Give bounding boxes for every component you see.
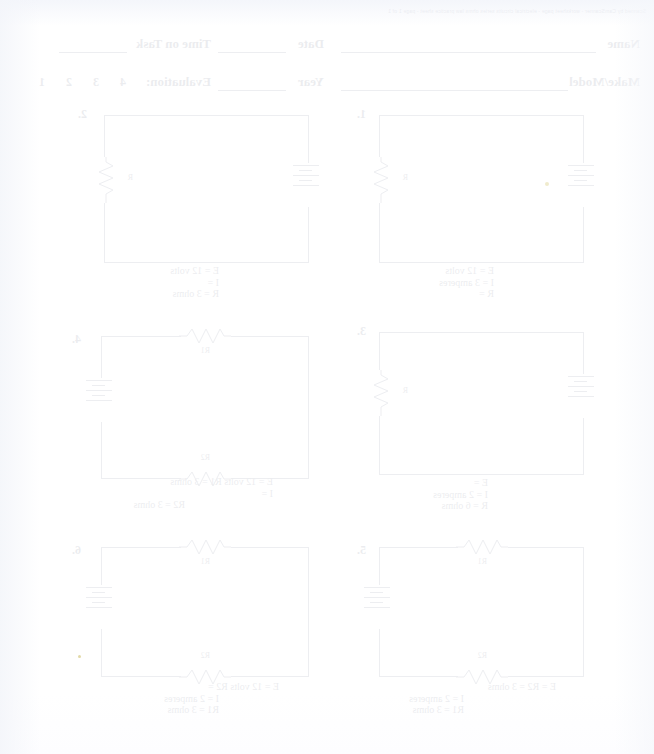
resistor-tag-4-r1: R1 [201,346,210,355]
header-rule-year[interactable] [218,90,286,91]
circuit-2-value-e: E = 12 volts [170,265,219,277]
header-label-name: Name [608,36,641,52]
evaluation-scale[interactable]: 4 3 2 1 [30,75,126,90]
circuit-diagram-1: 1. R E = 12 volts I = 3 amperes R = [354,105,584,305]
circuit-3-value-e: E = [433,477,488,489]
header-label-time-on-task: Time on Task [136,36,211,52]
circuit-diagram-5: 5. R1 R2 E = R2 [354,535,584,745]
circuit-1-value-e: E = 12 volts [439,265,494,277]
circuit-4-value-e: E = 12 volts R1 = 3 ohms [134,476,273,488]
scanned-sheet-mirrored: Scanned by CamScanner - worksheet page -… [0,0,654,754]
battery-symbol-6 [82,587,116,612]
resistor-symbol-1 [372,157,390,203]
scan-strip-text: Scanned by CamScanner - worksheet page -… [10,8,646,17]
circuit-6-value-r1: R1 = 3 ohms [164,704,219,716]
battery-symbol-1 [564,165,598,190]
battery-symbol-3 [564,376,598,401]
circuit-2-value-i: I = [170,277,219,289]
resistor-tag-6-r1: R1 [201,557,210,566]
scan-speck [78,655,81,658]
resistor-symbol-4-r1 [179,326,231,346]
circuit-diagram-3: 3. R E = I = 2 amperes R = 6 ohms [354,322,584,522]
circuit-6-value-i: I = 2 amperes [164,693,219,705]
battery-symbol-2 [289,165,323,190]
scan-speck [545,182,549,186]
circuit-diagram-6: 6. R1 R2 E = 12 volts R2 = [64,535,309,745]
resistor-tag-1-r: R [403,173,408,182]
header-label-date: Date [298,36,324,52]
circuit-number-2: 2. [78,107,87,122]
circuit-4-values: E = 12 volts R1 = 3 ohms I = R2 = 3 ohms [134,476,273,511]
circuit-1-value-r: R = [439,288,494,300]
resistor-tag-5-r1: R1 [478,557,487,566]
header-rule-make-model[interactable] [341,90,568,91]
header-label-make-model: Make/Model [569,74,640,90]
header-rule-time-on-task[interactable] [59,52,127,53]
header-rule-name[interactable] [341,52,596,53]
worksheet-page: Scanned by CamScanner - worksheet page -… [0,0,654,754]
resistor-symbol-2 [97,157,115,203]
circuit-3-values: E = I = 2 amperes R = 6 ohms [433,477,488,512]
resistor-symbol-6-r1 [179,537,231,557]
circuit-2-value-r: R = 3 ohms [170,288,219,300]
resistor-tag-6-r2: R2 [201,651,210,660]
circuit-diagram-4: 4. R1 R2 E = 1 [64,322,309,522]
resistor-tag-2-r: R [128,173,133,182]
circuit-5-value-r1: R1 = 3 ohms [409,704,464,716]
circuit-diagram-2: 2. R E = 12 volts I = R = 3 ohms [69,105,309,305]
circuit-6-values: E = 12 volts R2 = I = 2 amperes R1 = 3 o… [164,681,279,716]
circuit-1-values: E = 12 volts I = 3 amperes R = [439,265,494,300]
circuit-loop-3 [379,332,584,475]
circuit-loop-1 [379,115,584,263]
circuit-6-value-e: E = 12 volts R2 = [164,681,279,693]
circuit-5-value-e: E = R2 = 3 ohms [409,681,556,693]
circuit-5-value-i: I = 2 amperes [409,693,464,705]
header-label-evaluation: Evaluation: [146,74,211,90]
header-rule-date[interactable] [218,52,286,53]
header-label-year: Year [298,74,324,90]
circuit-loop-2 [104,115,309,263]
resistor-tag-4-r2: R2 [201,453,210,462]
circuit-number-5: 5. [357,543,366,558]
battery-symbol-5 [360,587,394,612]
resistor-symbol-3 [372,370,390,416]
resistor-tag-3-r: R [403,386,408,395]
circuit-number-6: 6. [72,543,81,558]
circuit-1-value-i: I = 3 amperes [439,277,494,289]
circuit-3-value-r: R = 6 ohms [433,500,488,512]
circuit-5-values: E = R2 = 3 ohms I = 2 amperes R1 = 3 ohm… [409,681,556,716]
circuit-2-values: E = 12 volts I = R = 3 ohms [170,265,219,300]
circuit-4-value-r2: R2 = 3 ohms [134,499,185,511]
resistor-tag-5-r2: R2 [478,651,487,660]
battery-symbol-4 [82,380,116,405]
circuit-number-1: 1. [357,107,366,122]
resistor-symbol-5-r1 [456,537,508,557]
circuit-number-4: 4. [72,332,81,347]
circuit-4-value-i: I = [134,488,273,500]
circuit-number-3: 3. [357,324,366,339]
circuit-3-value-i: I = 2 amperes [433,489,488,501]
